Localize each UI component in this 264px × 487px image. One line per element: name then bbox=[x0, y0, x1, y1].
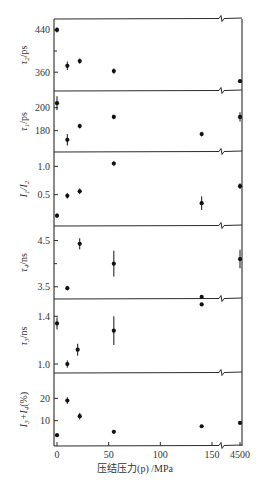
panel-2: 180200τ1/ps bbox=[18, 96, 242, 145]
panel-border-with-break bbox=[54, 443, 242, 449]
x-tick-label: 100 bbox=[153, 449, 168, 460]
marker bbox=[78, 189, 82, 193]
y-tick-label: 440 bbox=[35, 24, 50, 35]
data-point bbox=[65, 193, 69, 199]
panel-border-with-break bbox=[54, 149, 242, 155]
multi-panel-scatter-chart: 360440τ2/ps180200τ1/ps0.51.0I1/I23.54.5τ… bbox=[0, 0, 264, 487]
y-tick-label: 0.5 bbox=[38, 189, 51, 200]
data-point bbox=[112, 430, 116, 434]
y-axis-label: τ1/ps bbox=[18, 112, 31, 131]
y-tick-label: 3.5 bbox=[38, 281, 51, 292]
panel-5: 1.01.4τ3/ns bbox=[18, 302, 204, 369]
data-point bbox=[238, 421, 242, 425]
marker bbox=[65, 138, 69, 142]
data-point bbox=[55, 213, 59, 218]
data-point bbox=[112, 68, 116, 73]
marker bbox=[238, 257, 242, 261]
y-axis-label: I1/I2 bbox=[18, 180, 31, 198]
data-point bbox=[78, 58, 82, 63]
marker bbox=[238, 421, 242, 425]
data-point bbox=[65, 62, 69, 70]
marker bbox=[200, 201, 204, 205]
marker bbox=[238, 115, 242, 119]
data-point bbox=[76, 344, 80, 356]
marker bbox=[78, 242, 82, 246]
marker bbox=[200, 424, 204, 428]
data-point bbox=[200, 302, 204, 306]
panel-border-with-break bbox=[54, 16, 242, 22]
y-tick-label: 10 bbox=[40, 415, 50, 426]
data-point bbox=[65, 134, 69, 145]
data-point bbox=[78, 124, 82, 129]
marker bbox=[55, 28, 59, 32]
marker bbox=[55, 433, 59, 437]
data-point bbox=[55, 27, 59, 32]
data-point bbox=[200, 424, 204, 428]
marker bbox=[76, 348, 80, 352]
y-axis-label: τ4/ns bbox=[18, 253, 31, 272]
x-axis-label: 压结压力(p) /MPa bbox=[97, 462, 173, 475]
y-tick-label: 20 bbox=[40, 393, 50, 404]
y-tick-label: 360 bbox=[35, 67, 50, 78]
marker bbox=[78, 124, 82, 128]
data-point bbox=[55, 318, 59, 330]
panel-border-with-break bbox=[54, 370, 242, 376]
y-tick-label: 200 bbox=[35, 102, 50, 113]
data-point bbox=[200, 132, 204, 137]
x-tick-label: 0 bbox=[55, 449, 60, 460]
y-tick-label: 1.4 bbox=[38, 311, 51, 322]
x-tick-label: 4500 bbox=[230, 449, 250, 460]
marker bbox=[65, 286, 69, 290]
x-axis: 0501001504500 bbox=[55, 442, 251, 460]
marker bbox=[112, 161, 116, 165]
marker bbox=[112, 329, 116, 333]
data-point bbox=[78, 188, 82, 194]
marker bbox=[112, 430, 116, 434]
data-point bbox=[65, 360, 69, 367]
data-point bbox=[65, 286, 69, 291]
chart-panels: 360440τ2/ps180200τ1/ps0.51.0I1/I23.54.5τ… bbox=[18, 16, 242, 449]
marker bbox=[65, 362, 69, 366]
marker bbox=[238, 184, 242, 188]
data-point bbox=[78, 413, 82, 420]
data-point bbox=[238, 79, 242, 83]
data-point bbox=[112, 161, 116, 166]
y-tick-label: 1.0 bbox=[38, 359, 51, 370]
marker bbox=[200, 132, 204, 136]
marker bbox=[112, 115, 116, 119]
marker bbox=[238, 79, 242, 83]
data-point bbox=[112, 115, 116, 120]
x-tick-label: 150 bbox=[205, 449, 220, 460]
marker bbox=[55, 321, 59, 325]
marker bbox=[65, 64, 69, 68]
panel-border-with-break bbox=[54, 88, 242, 94]
y-axis-label: τ3/ns bbox=[18, 327, 31, 346]
panel-1: 360440τ2/ps bbox=[18, 24, 242, 83]
marker bbox=[55, 101, 59, 105]
panel-4: 3.54.5τ4/ns bbox=[18, 235, 242, 299]
panel-3: 0.51.0I1/I2 bbox=[18, 161, 242, 218]
marker bbox=[78, 59, 82, 63]
data-point bbox=[55, 433, 59, 437]
x-tick-label: 50 bbox=[104, 449, 114, 460]
y-tick-label: 4.5 bbox=[38, 235, 51, 246]
panel-border-with-break bbox=[54, 223, 242, 229]
y-tick-label: 180 bbox=[35, 125, 50, 136]
data-point bbox=[200, 295, 204, 299]
marker bbox=[78, 414, 82, 418]
y-tick-label: 1.0 bbox=[38, 161, 51, 172]
data-point bbox=[65, 397, 69, 404]
marker bbox=[200, 295, 204, 299]
panel-6: 1020I3+I4(%) bbox=[18, 392, 242, 437]
marker bbox=[200, 302, 204, 306]
marker bbox=[55, 214, 59, 218]
data-point bbox=[200, 196, 204, 210]
marker bbox=[65, 398, 69, 402]
marker bbox=[112, 69, 116, 73]
data-point bbox=[78, 238, 82, 249]
y-axis-label: τ2/ps bbox=[18, 46, 31, 65]
y-axis-label: I3+I4(%) bbox=[18, 392, 31, 428]
marker bbox=[65, 194, 69, 198]
data-point bbox=[112, 251, 116, 277]
panel-border-with-break bbox=[54, 296, 242, 302]
